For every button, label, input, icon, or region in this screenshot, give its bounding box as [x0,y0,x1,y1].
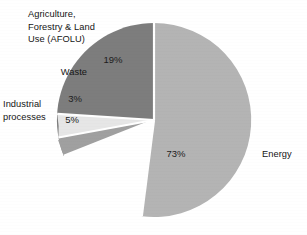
pie-label-industrial: Industrial processes [3,98,65,123]
slice-value-industrial: 5% [65,114,79,125]
slice-value-energy: 73% [166,148,186,159]
slice-value-waste: 3% [68,93,82,104]
pie-chart: 73% 19% 3% 5% Agriculture, Forestry & La… [0,0,307,235]
pie-label-waste: Waste [25,66,87,79]
pie-label-energy: Energy [262,148,306,161]
slice-value-afolu: 19% [103,54,123,65]
pie-label-afolu: Agriculture, Forestry & Land Use (AFOLU) [28,8,114,46]
pie-slice-energy[interactable] [142,23,251,217]
